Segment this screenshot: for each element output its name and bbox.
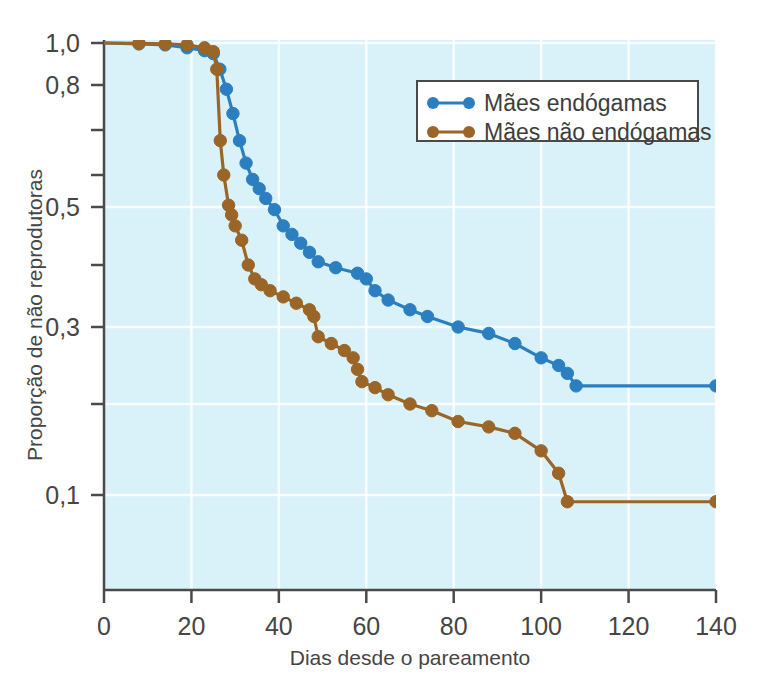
y-tick-label: 0,5 — [45, 193, 80, 221]
data-point — [236, 234, 248, 246]
x-tick-label: 100 — [520, 612, 562, 640]
data-point — [277, 291, 289, 303]
data-point — [404, 304, 416, 316]
legend-marker — [463, 126, 475, 138]
data-point — [561, 367, 573, 379]
data-point — [260, 192, 272, 204]
data-point — [347, 352, 359, 364]
data-point — [710, 496, 722, 508]
data-point — [207, 45, 219, 57]
x-axis-ticks — [104, 590, 716, 603]
data-point — [404, 398, 416, 410]
data-point — [268, 203, 280, 215]
data-point — [570, 380, 582, 392]
y-axis-title: Proporção de não reprodutoras — [23, 169, 46, 461]
data-point — [303, 246, 315, 258]
data-point — [240, 157, 252, 169]
x-tick-label: 40 — [265, 612, 293, 640]
data-point — [382, 294, 394, 306]
y-tick-label: 0,3 — [45, 313, 80, 341]
data-point — [509, 337, 521, 349]
data-point — [452, 321, 464, 333]
chart-figure: 1,00,80,50,30,1 020406080100120140 Propo… — [0, 0, 761, 681]
data-point — [220, 83, 232, 95]
data-point — [229, 220, 241, 232]
data-point — [133, 37, 145, 49]
data-point — [308, 310, 320, 322]
data-point — [710, 380, 722, 392]
x-tick-label: 80 — [440, 612, 468, 640]
y-tick-label: 1,0 — [45, 29, 80, 57]
data-point — [369, 285, 381, 297]
chart-svg: 1,00,80,50,30,1 020406080100120140 Propo… — [0, 0, 761, 681]
data-point — [159, 38, 171, 50]
data-point — [452, 415, 464, 427]
data-point — [561, 496, 573, 508]
data-point — [312, 331, 324, 343]
data-point — [360, 273, 372, 285]
legend-marker — [427, 97, 439, 109]
data-point — [426, 405, 438, 417]
y-tick-label: 0,1 — [45, 481, 80, 509]
data-point — [421, 310, 433, 322]
x-axis-tick-labels: 020406080100120140 — [97, 612, 737, 640]
data-point — [356, 375, 368, 387]
data-point — [211, 63, 223, 75]
data-point — [233, 134, 245, 146]
x-tick-label: 0 — [97, 612, 111, 640]
data-point — [325, 337, 337, 349]
data-point — [382, 389, 394, 401]
x-tick-label: 60 — [352, 612, 380, 640]
data-point — [482, 327, 494, 339]
data-point — [509, 427, 521, 439]
legend-marker — [463, 97, 475, 109]
x-tick-label: 140 — [695, 612, 737, 640]
y-tick-label: 0,8 — [45, 71, 80, 99]
data-point — [535, 445, 547, 457]
y-axis-ticks — [91, 43, 104, 495]
data-point — [181, 39, 193, 51]
data-point — [351, 363, 363, 375]
x-tick-label: 20 — [178, 612, 206, 640]
data-point — [218, 169, 230, 181]
data-point — [312, 256, 324, 268]
data-point — [227, 107, 239, 119]
data-point — [264, 285, 276, 297]
chart-legend: Mães endógamasMães não endógamas — [417, 81, 712, 145]
data-point — [369, 381, 381, 393]
legend-marker — [427, 126, 439, 138]
x-axis-title: Dias desde o pareamento — [290, 646, 531, 669]
data-point — [290, 297, 302, 309]
data-point — [535, 352, 547, 364]
data-point — [329, 262, 341, 274]
data-point — [214, 134, 226, 146]
y-axis-tick-labels: 1,00,80,50,30,1 — [45, 29, 80, 509]
data-point — [242, 259, 254, 271]
legend-label: Mães endógamas — [484, 90, 667, 116]
data-point — [552, 467, 564, 479]
data-point — [482, 421, 494, 433]
legend-label: Mães não endógamas — [484, 119, 712, 145]
x-tick-label: 120 — [608, 612, 650, 640]
